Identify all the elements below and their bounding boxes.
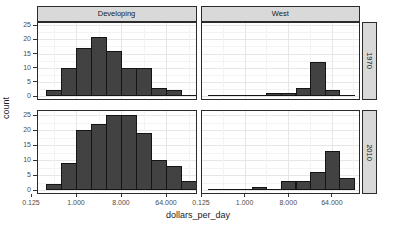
gridline-minor <box>202 61 359 62</box>
histogram-bar <box>46 90 62 96</box>
facet-strip-west: West <box>201 6 360 22</box>
gridline-minor <box>202 46 359 47</box>
y-tick-mark <box>33 130 37 131</box>
histogram-bar <box>76 48 92 96</box>
facet-strip-2010: 2010 <box>362 110 378 194</box>
gridline-minor <box>38 32 196 33</box>
histogram-bar <box>46 184 62 190</box>
x-axis-title: dollars_per_day <box>36 210 360 220</box>
histogram-bar <box>166 166 182 190</box>
histogram-bar <box>106 51 122 96</box>
x-tick-mark <box>166 194 167 197</box>
gridline-minor <box>202 138 359 139</box>
y-tick-label: 15 <box>13 50 31 58</box>
gridline-minor <box>223 111 224 193</box>
y-tick-mark <box>33 190 37 191</box>
x-tick-label: 1.000 <box>61 199 91 207</box>
y-tick-mark <box>33 39 37 40</box>
y-tick-label: 20 <box>13 35 31 43</box>
gridline-major <box>288 23 289 99</box>
x-tick-label: 64.000 <box>317 199 347 207</box>
histogram-bar <box>121 115 137 190</box>
y-tick-label: 20 <box>13 126 31 134</box>
histogram-bar <box>296 181 312 190</box>
x-tick-mark <box>201 194 202 197</box>
y-tick-label: 0 <box>13 92 31 100</box>
histogram-bar <box>76 130 92 190</box>
gridline-major <box>202 25 359 26</box>
y-tick-label: 10 <box>13 64 31 72</box>
gridline-major <box>38 190 196 191</box>
y-tick-label: 0 <box>13 186 31 194</box>
x-tick-mark <box>331 194 332 197</box>
gridline-minor <box>54 23 55 99</box>
facet-strip-developing: Developing <box>37 6 197 22</box>
y-tick-mark <box>33 67 37 68</box>
panel-west-1970 <box>201 22 360 100</box>
gridline-major <box>202 145 359 146</box>
gridline-minor <box>353 23 354 99</box>
y-tick-mark <box>33 175 37 176</box>
y-tick-mark <box>33 115 37 116</box>
x-tick-mark <box>244 194 245 197</box>
y-tick-label: 15 <box>13 141 31 149</box>
x-tick-mark <box>288 194 289 197</box>
y-tick-label: 25 <box>13 21 31 29</box>
x-tick-mark <box>121 194 122 197</box>
facet-strip-developing-label: Developing <box>98 9 136 18</box>
facet-strip-1970-label: 1970 <box>365 52 374 69</box>
histogram-bar <box>281 93 297 96</box>
gridline-major <box>202 39 359 40</box>
gridline-major <box>245 111 246 193</box>
x-tick-label: 0.125 <box>16 199 46 207</box>
gridline-major <box>202 115 359 116</box>
histogram-bar <box>106 115 122 190</box>
histogram-zero-bin <box>208 189 224 191</box>
histogram-bar <box>151 160 167 190</box>
panel-developing-2010 <box>37 110 197 194</box>
gridline-major <box>202 96 359 97</box>
facet-strip-1970: 1970 <box>362 22 378 100</box>
x-tick-mark <box>76 194 77 197</box>
x-tick-label: 8.000 <box>273 199 303 207</box>
gridline-major <box>38 39 196 40</box>
y-tick-mark <box>33 145 37 146</box>
gridline-minor <box>202 123 359 124</box>
x-tick-label: 64.000 <box>151 199 181 207</box>
gridline-minor <box>38 46 196 47</box>
histogram-bar <box>252 187 268 190</box>
y-tick-label: 10 <box>13 156 31 164</box>
gridline-major <box>38 25 196 26</box>
gridline-major <box>245 23 246 99</box>
gridline-minor <box>223 23 224 99</box>
histogram-zero-bin <box>208 95 224 97</box>
histogram-bar <box>281 181 297 190</box>
panel-west-2010 <box>201 110 360 194</box>
gridline-minor <box>189 23 190 99</box>
histogram-bar <box>91 37 107 96</box>
histogram-bar <box>61 68 77 96</box>
y-tick-mark <box>33 96 37 97</box>
histogram-zero-bin <box>237 95 253 97</box>
histogram-bar <box>310 62 326 96</box>
histogram-bar <box>181 181 197 190</box>
faceted-histogram-figure: Developing West 1970 2010 count dollars_… <box>0 0 393 232</box>
histogram-zero-bin <box>339 95 355 97</box>
y-tick-mark <box>33 25 37 26</box>
histogram-bar <box>325 151 341 190</box>
histogram-bar <box>339 178 355 190</box>
gridline-major <box>202 190 359 191</box>
x-tick-label: 1.000 <box>230 199 260 207</box>
histogram-bar <box>151 88 167 96</box>
x-tick-mark <box>31 194 32 197</box>
y-tick-label: 5 <box>13 78 31 86</box>
histogram-bar <box>91 124 107 190</box>
facet-strip-west-label: West <box>272 9 289 18</box>
histogram-bar <box>325 90 341 96</box>
histogram-bar <box>61 163 77 190</box>
histogram-bar <box>310 172 326 190</box>
gridline-major <box>202 68 359 69</box>
gridline-minor <box>202 32 359 33</box>
facet-strip-2010-label: 2010 <box>365 144 374 161</box>
x-tick-label: 0.125 <box>186 199 216 207</box>
